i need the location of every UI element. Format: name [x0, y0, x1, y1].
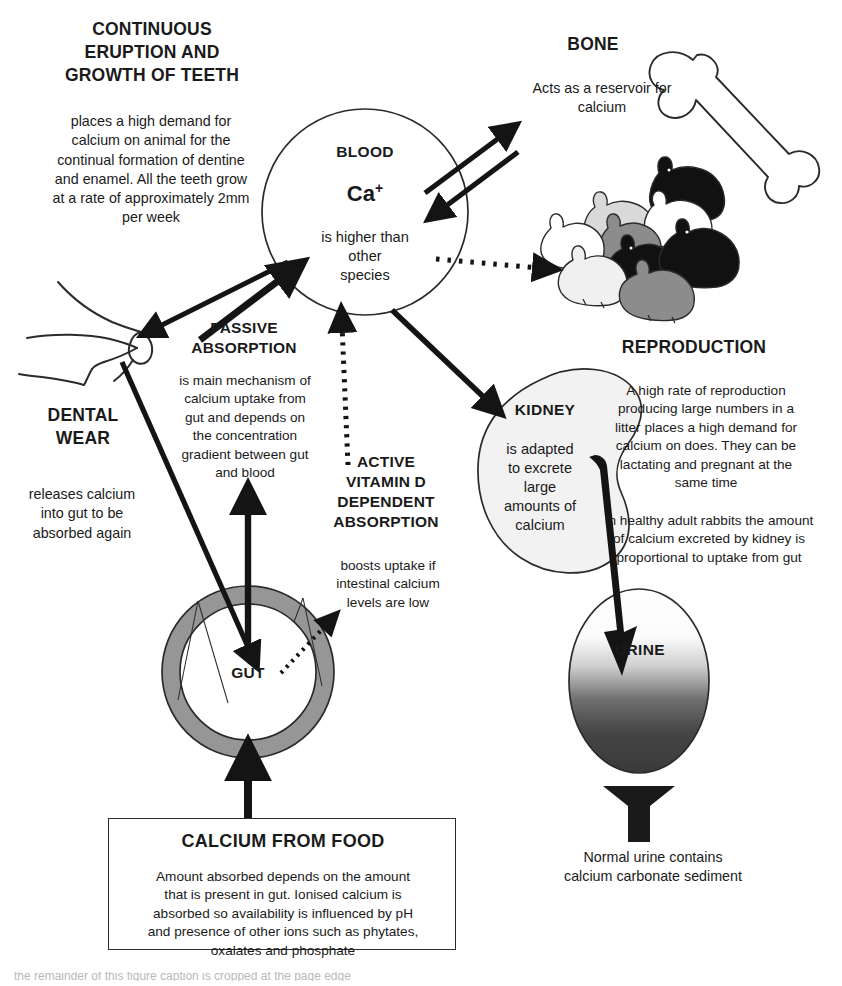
gut-heading: GUT: [198, 663, 298, 683]
reproduction-body-secondary: In healthy adult rabbits the amount of c…: [594, 512, 824, 567]
urine-heading: URINE: [584, 640, 696, 660]
blood-ion-symbol: Ca: [347, 181, 375, 206]
arrow-blood-to-kidney: [392, 310, 492, 405]
urine-ellipse: [569, 589, 709, 773]
arrow-urine-to-sediment: [603, 786, 675, 842]
food-heading: CALCIUM FROM FOOD: [109, 830, 457, 853]
calcium-from-food-box: CALCIUM FROM FOOD Amount absorbed depend…: [108, 818, 456, 950]
arrow-gut-to-blood-active: [342, 325, 348, 465]
blood-heading: BLOOD: [300, 142, 430, 162]
food-body: Amount absorbed depends on the amount th…: [119, 868, 447, 960]
teeth-heading: CONTINUOUS ERUPTION AND GROWTH OF TEETH: [18, 18, 286, 87]
bone-heading: BONE: [510, 33, 676, 56]
blood-ion: Ca+: [300, 180, 430, 208]
passive-absorption-heading: PASSIVE ABSORPTION: [170, 318, 318, 358]
dental-wear-body: releases calcium into gut to be absorbed…: [6, 485, 158, 543]
active-vitd-heading: ACTIVE VITAMIN D DEPENDENT ABSORPTION: [322, 452, 450, 533]
teeth-body: places a high demand for calcium on anim…: [18, 112, 284, 228]
active-vitd-body: boosts uptake if intestinal calcium leve…: [316, 557, 460, 612]
bone-body: Acts as a reservoir for calcium: [500, 79, 704, 118]
urine-caption: Normal urine contains calcium carbonate …: [510, 848, 796, 887]
blood-body: is higher than other species: [292, 228, 438, 285]
reproduction-body: A high rate of reproduction producing la…: [600, 382, 812, 493]
kidney-body: is adapted to excrete large amounts of c…: [478, 440, 602, 535]
diagram-canvas: CONTINUOUS ERUPTION AND GROWTH OF TEETH …: [0, 0, 842, 986]
rabbit-litter-cluster: [541, 157, 739, 323]
blood-ion-charge: +: [375, 180, 383, 196]
reproduction-heading: REPRODUCTION: [590, 336, 798, 359]
cropped-caption-strip: the remainder of this figure caption is …: [14, 972, 714, 981]
rabbit-skull-icon: [19, 282, 152, 385]
dental-wear-heading: DENTAL WEAR: [8, 404, 158, 450]
kidney-heading: KIDNEY: [485, 400, 605, 420]
passive-absorption-body: is main mechanism of calcium uptake from…: [162, 372, 328, 483]
